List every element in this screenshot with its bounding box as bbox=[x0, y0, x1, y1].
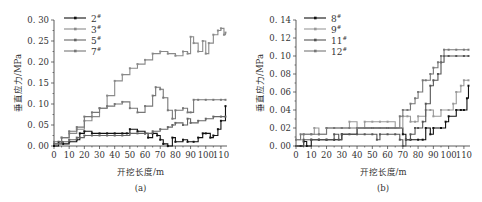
data-point bbox=[387, 127, 389, 129]
data-point bbox=[295, 139, 297, 141]
data-point bbox=[437, 61, 439, 63]
data-point bbox=[313, 127, 315, 129]
data-point bbox=[448, 109, 450, 111]
data-point bbox=[121, 135, 123, 137]
x-tick-label: 90 bbox=[185, 150, 196, 160]
data-point bbox=[460, 109, 462, 111]
data-point bbox=[402, 145, 404, 147]
data-point bbox=[129, 132, 131, 134]
data-point bbox=[402, 133, 404, 135]
data-point bbox=[405, 139, 407, 141]
y-axis-label: 垂直应力/MPa bbox=[255, 54, 265, 112]
data-point bbox=[387, 133, 389, 135]
x-tick-label: 40 bbox=[109, 150, 120, 160]
data-point bbox=[197, 120, 199, 122]
data-point bbox=[422, 139, 424, 141]
data-point bbox=[425, 79, 427, 81]
figure: 0. 000. 050. 100. 150. 200. 250. 3001020… bbox=[0, 0, 482, 202]
data-point bbox=[333, 127, 335, 129]
y-tick-label: 0. 05 bbox=[27, 120, 49, 130]
data-point bbox=[414, 127, 416, 129]
data-point bbox=[432, 127, 434, 129]
data-point bbox=[379, 121, 381, 123]
y-tick-label: 0. 00 bbox=[27, 141, 49, 151]
data-point bbox=[129, 67, 131, 69]
chart-panel-a: 0. 000. 050. 100. 150. 200. 250. 3001020… bbox=[13, 13, 229, 193]
data-point bbox=[443, 49, 445, 51]
x-tick-label: 30 bbox=[336, 150, 347, 160]
data-point bbox=[205, 99, 207, 101]
data-point bbox=[429, 109, 431, 111]
data-point bbox=[463, 55, 465, 57]
data-point bbox=[159, 88, 161, 90]
data-point bbox=[364, 133, 366, 135]
x-tick-label: 20 bbox=[79, 150, 90, 160]
data-point bbox=[144, 132, 146, 134]
data-point bbox=[437, 73, 439, 75]
data-point bbox=[61, 137, 63, 139]
data-point bbox=[182, 51, 184, 53]
data-point bbox=[402, 109, 404, 111]
x-tick-label: 100 bbox=[198, 150, 214, 160]
data-point bbox=[440, 55, 442, 57]
legend-label: 2# bbox=[91, 13, 102, 24]
data-point bbox=[76, 126, 78, 128]
data-point bbox=[467, 49, 469, 51]
data-point bbox=[83, 135, 85, 137]
y-tick-label: 0. 30 bbox=[27, 15, 49, 25]
data-point bbox=[212, 135, 214, 137]
y-tick-label: 0. 25 bbox=[27, 36, 49, 46]
data-point bbox=[53, 143, 55, 145]
legend-label: 3# bbox=[91, 24, 102, 35]
data-point bbox=[159, 51, 161, 53]
data-point bbox=[326, 127, 328, 129]
data-point bbox=[295, 145, 297, 147]
data-point bbox=[182, 107, 184, 109]
data-point bbox=[217, 128, 219, 130]
data-point bbox=[106, 95, 108, 97]
data-point bbox=[99, 135, 101, 137]
series-line-12 bbox=[296, 50, 468, 140]
data-point bbox=[167, 53, 169, 55]
data-point bbox=[455, 55, 457, 57]
data-point bbox=[364, 121, 366, 123]
data-point bbox=[406, 115, 408, 117]
data-point bbox=[193, 99, 195, 101]
y-axis-label: 垂直应力/MPa bbox=[13, 54, 23, 112]
data-point bbox=[414, 121, 416, 123]
data-point bbox=[91, 135, 93, 137]
data-point bbox=[303, 133, 305, 135]
y-tick-label: 0. 02 bbox=[269, 123, 291, 133]
data-point bbox=[187, 118, 189, 120]
data-point bbox=[348, 121, 350, 123]
series-line-11 bbox=[296, 56, 468, 146]
data-point bbox=[162, 143, 164, 145]
data-point bbox=[364, 127, 366, 129]
data-point bbox=[205, 118, 207, 120]
series-line-9 bbox=[296, 80, 468, 139]
data-point bbox=[197, 51, 199, 53]
data-point bbox=[212, 99, 214, 101]
y-tick-label: 0. 08 bbox=[269, 69, 291, 79]
data-point bbox=[79, 132, 81, 134]
data-point bbox=[187, 141, 189, 143]
data-point bbox=[452, 103, 454, 105]
data-point bbox=[448, 49, 450, 51]
data-point bbox=[190, 36, 192, 38]
data-point bbox=[432, 67, 434, 69]
data-point bbox=[114, 135, 116, 137]
data-point bbox=[371, 127, 373, 129]
chart-panel-b: 0. 000. 020. 040. 060. 080. 100. 120. 14… bbox=[255, 13, 472, 193]
data-point bbox=[224, 99, 226, 101]
data-point bbox=[220, 99, 222, 101]
data-point bbox=[455, 91, 457, 93]
data-point bbox=[193, 42, 195, 44]
y-tick-label: 0. 14 bbox=[269, 15, 291, 25]
data-point bbox=[310, 139, 312, 141]
data-point bbox=[348, 127, 350, 129]
data-point bbox=[341, 133, 343, 135]
data-point bbox=[379, 133, 381, 135]
data-point bbox=[463, 109, 465, 111]
data-point bbox=[326, 139, 328, 141]
data-point bbox=[99, 107, 101, 109]
